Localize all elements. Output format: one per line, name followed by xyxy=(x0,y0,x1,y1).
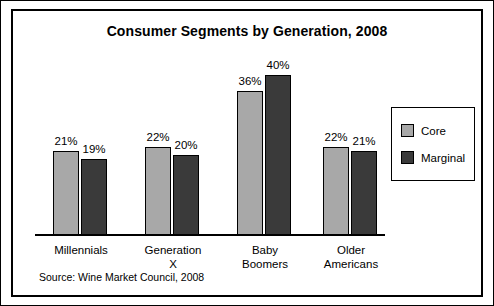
bar-marginal: 19% xyxy=(81,159,107,235)
chart-legend: Core Marginal xyxy=(391,107,475,181)
bar-group: 36%40% xyxy=(237,75,291,235)
bar-group: 21%19% xyxy=(53,151,107,235)
chart-title: Consumer Segments by Generation, 2008 xyxy=(13,23,481,39)
bar-core: 36% xyxy=(237,91,263,235)
category-label: GenerationX xyxy=(125,243,221,271)
x-axis-line xyxy=(35,234,385,236)
legend-swatch-core xyxy=(401,124,414,137)
bar-marginal: 21% xyxy=(351,151,377,235)
bar-value-label: 40% xyxy=(266,59,289,71)
plot-area: 21%19%22%20%36%40%22%21% xyxy=(35,55,375,235)
chart-card: Consumer Segments by Generation, 2008 21… xyxy=(11,9,483,297)
source-note: Source: Wine Market Council, 2008 xyxy=(39,271,204,283)
bar-value-label: 22% xyxy=(324,131,347,143)
legend-swatch-marginal xyxy=(401,151,414,164)
bar-value-label: 21% xyxy=(352,135,375,147)
bar-core: 21% xyxy=(53,151,79,235)
bar-value-label: 22% xyxy=(146,131,169,143)
bar-value-label: 36% xyxy=(238,75,261,87)
screenshot-frame: Consumer Segments by Generation, 2008 21… xyxy=(0,0,494,306)
bar-marginal: 20% xyxy=(173,155,199,235)
legend-item-marginal: Marginal xyxy=(401,151,474,164)
bar-core: 22% xyxy=(145,147,171,235)
legend-label-marginal: Marginal xyxy=(421,152,465,164)
bar-value-label: 19% xyxy=(82,143,105,155)
bar-marginal: 40% xyxy=(265,75,291,235)
bar-group: 22%20% xyxy=(145,147,199,235)
bar-core: 22% xyxy=(323,147,349,235)
category-label: OlderAmericans xyxy=(303,243,399,271)
bar-value-label: 20% xyxy=(174,139,197,151)
category-label: Millennials xyxy=(33,243,129,257)
category-label: BabyBoomers xyxy=(217,243,313,271)
legend-label-core: Core xyxy=(421,125,446,137)
legend-item-core: Core xyxy=(401,124,474,137)
bar-value-label: 21% xyxy=(54,135,77,147)
bar-group: 22%21% xyxy=(323,147,377,235)
